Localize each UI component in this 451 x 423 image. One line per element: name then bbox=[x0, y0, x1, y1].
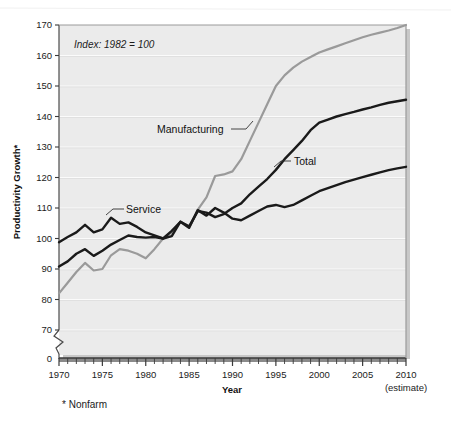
x-tick-label-1980: 1980 bbox=[135, 369, 156, 380]
index-note: Index: 1982 = 100 bbox=[74, 39, 155, 50]
x-tick-label-1975: 1975 bbox=[92, 369, 113, 380]
productivity-growth-chart: 1701601501401301201101009080700 19701975… bbox=[0, 0, 451, 423]
y-tick-label-100: 100 bbox=[36, 233, 52, 244]
x-tick-label-2000: 2000 bbox=[309, 369, 330, 380]
x-tick-label-1995: 1995 bbox=[265, 369, 286, 380]
y-tick-label-160: 160 bbox=[36, 50, 52, 61]
x-axis-title: Year bbox=[222, 384, 242, 395]
y-tick-label-0: 0 bbox=[47, 353, 52, 364]
series-label-service: Service bbox=[126, 203, 161, 215]
y-tick-label-80: 80 bbox=[41, 294, 52, 305]
x-tick-label-2010: 2010 bbox=[395, 369, 416, 380]
y-tick-label-130: 130 bbox=[36, 141, 52, 152]
x-tick-label-1985: 1985 bbox=[179, 369, 200, 380]
y-axis-title: Productivity Growth* bbox=[11, 144, 22, 239]
plot-background bbox=[59, 25, 406, 355]
footnote-nonfarm: * Nonfarm bbox=[62, 399, 107, 410]
chart-canvas: 1701601501401301201101009080700 19701975… bbox=[0, 0, 451, 423]
y-tick-label-70: 70 bbox=[41, 324, 52, 335]
y-tick-label-90: 90 bbox=[41, 263, 52, 274]
x-tick-label-1970: 1970 bbox=[48, 369, 69, 380]
series-label-manufacturing: Manufacturing bbox=[157, 123, 224, 135]
y-tick-label-110: 110 bbox=[37, 202, 52, 213]
x-tick-label-2005: 2005 bbox=[352, 369, 373, 380]
y-tick-label-120: 120 bbox=[36, 172, 52, 183]
y-tick-label-170: 170 bbox=[36, 19, 52, 30]
y-tick-label-140: 140 bbox=[36, 111, 52, 122]
page-edge-line bbox=[0, 8, 451, 10]
y-axis-ticks: 1701601501401301201101009080700 bbox=[36, 19, 59, 364]
y-tick-label-150: 150 bbox=[36, 80, 52, 91]
series-label-total: Total bbox=[294, 155, 316, 167]
x-tick-label-1990: 1990 bbox=[222, 369, 243, 380]
estimate-note: (estimate) bbox=[385, 382, 427, 393]
